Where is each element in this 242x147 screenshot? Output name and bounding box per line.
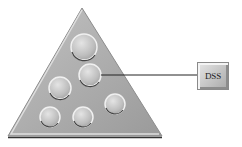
dss-box: DSS (197, 62, 229, 90)
dss-label: DSS (205, 71, 221, 81)
circle-4 (105, 94, 125, 114)
circle-3 (49, 77, 71, 100)
circle-5 (40, 107, 60, 127)
circle-6 (73, 107, 93, 127)
circle-1 (71, 34, 97, 61)
circle-2 (79, 64, 101, 87)
